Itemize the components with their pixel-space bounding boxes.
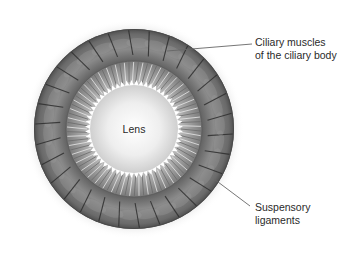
ciliary-label-line1: Ciliary muscles: [255, 36, 337, 49]
ciliary-muscles-label: Ciliary muscles of the ciliary body: [255, 36, 337, 62]
suspensory-ligaments-label: Suspensory ligaments: [255, 201, 310, 227]
suspensory-label-line2: ligaments: [255, 214, 310, 227]
ciliary-label-line2: of the ciliary body: [255, 49, 337, 62]
lens-label: Lens: [123, 123, 146, 135]
suspensory-label-line1: Suspensory: [255, 201, 310, 214]
